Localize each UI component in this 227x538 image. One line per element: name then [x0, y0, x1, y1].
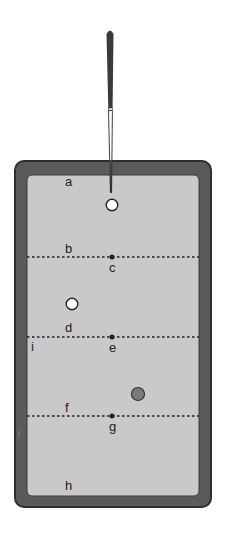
label-h: h	[65, 478, 72, 493]
marker-e	[110, 335, 115, 340]
label-j: j	[17, 428, 20, 437]
label-i: i	[31, 339, 34, 354]
marker-g	[110, 414, 115, 419]
white-object-ball	[66, 298, 78, 310]
cue-stick-butt	[107, 31, 114, 109]
label-g: g	[109, 419, 116, 434]
gray-object-ball	[132, 388, 145, 401]
label-a: a	[65, 174, 73, 189]
label-b: b	[65, 241, 72, 256]
billiards-diagram: a b c d e i f g j h	[0, 0, 227, 538]
label-c: c	[109, 260, 116, 275]
label-d: d	[65, 320, 72, 335]
label-f: f	[65, 400, 69, 415]
label-e: e	[109, 340, 116, 355]
cue-ball	[106, 199, 118, 211]
marker-c	[110, 255, 115, 260]
